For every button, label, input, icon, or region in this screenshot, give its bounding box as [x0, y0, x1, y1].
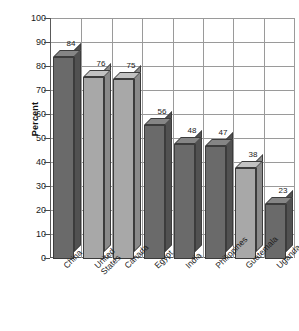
bar-side-face: [165, 111, 172, 252]
y-tick-label: 70: [20, 86, 46, 94]
bar-front-face: [113, 79, 134, 259]
bar-value-label: 56: [148, 107, 176, 116]
bar-series: 8476755648473823: [50, 18, 299, 259]
y-tick-label: 40: [20, 158, 46, 166]
y-tick-mark: [44, 258, 50, 259]
y-tick-mark: [44, 18, 50, 19]
y-tick-label: 80: [20, 62, 46, 70]
bar: [83, 70, 104, 259]
y-tick-mark: [44, 210, 50, 211]
y-tick-mark: [44, 138, 50, 139]
bar-value-label: 38: [239, 150, 267, 159]
bar-value-label: 84: [57, 39, 85, 48]
y-tick-label: 50: [20, 134, 46, 142]
bar: [144, 118, 165, 259]
y-tick-mark: [44, 42, 50, 43]
bar: [174, 137, 195, 259]
bar-value-label: 23: [269, 186, 297, 195]
y-tick-mark: [44, 162, 50, 163]
bar-value-label: 47: [209, 128, 237, 137]
bar-value-label: 76: [87, 59, 115, 68]
y-tick-mark: [44, 90, 50, 91]
bar-side-face: [195, 130, 202, 252]
bar: [53, 50, 74, 259]
y-tick-mark: [44, 114, 50, 115]
bar-side-face: [134, 65, 141, 252]
bar-value-label: 48: [178, 126, 206, 135]
y-tick-label: 60: [20, 110, 46, 118]
bar: [113, 72, 134, 259]
x-axis-tick-labels: ChinaUnitedStatesCanadaEgyptIndiaPhilipp…: [0, 258, 299, 331]
bar-front-face: [53, 57, 74, 259]
bar-front-face: [205, 146, 226, 259]
y-tick-label: 90: [20, 38, 46, 46]
y-tick-label: 100: [20, 14, 46, 22]
y-tick-label: 30: [20, 182, 46, 190]
chart-figure: Percent 1009080706050403020100 847675564…: [0, 0, 299, 331]
bar-front-face: [174, 144, 195, 259]
bar-front-face: [144, 125, 165, 259]
y-tick-mark: [44, 186, 50, 187]
bar-side-face: [104, 63, 111, 252]
y-tick-label: 20: [20, 206, 46, 214]
bar: [205, 139, 226, 259]
bar-front-face: [83, 77, 104, 259]
bar-side-face: [256, 154, 263, 252]
bar-side-face: [226, 132, 233, 252]
y-tick-mark: [44, 234, 50, 235]
bar-value-label: 75: [117, 61, 145, 70]
bar-side-face: [74, 43, 81, 252]
y-tick-label: 10: [20, 230, 46, 238]
y-tick-mark: [44, 66, 50, 67]
